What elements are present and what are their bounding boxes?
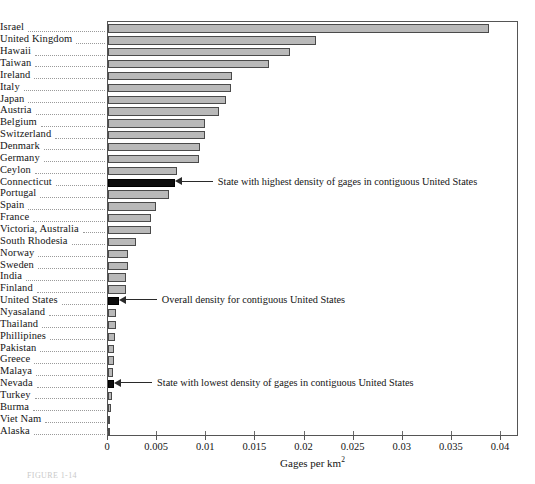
plot-area: [107, 21, 518, 436]
category-label-row: Belgium: [0, 116, 107, 128]
bar-row: [108, 200, 519, 212]
leader-dots: [83, 223, 105, 233]
bar-viet-nam: [108, 416, 110, 424]
bar-portugal: [108, 190, 169, 198]
x-tick: [402, 436, 403, 440]
leader-dots: [28, 200, 105, 210]
leader-dots: [55, 129, 105, 139]
category-label: India: [0, 270, 23, 281]
category-label: United Kingdom: [0, 33, 73, 44]
bar-row: [108, 93, 519, 105]
leader-dots: [38, 247, 105, 257]
bar-greece: [108, 356, 114, 364]
category-label-row: Hawaii: [0, 45, 107, 57]
category-label-row: Viet Nam: [0, 412, 107, 424]
bar-row: [108, 69, 519, 81]
bar-row: [108, 354, 519, 366]
leader-dots: [45, 413, 105, 423]
bar-row: [108, 46, 519, 58]
category-label-row: Finland: [0, 282, 107, 294]
x-tick-inner: [500, 431, 501, 435]
category-label: Ireland: [0, 69, 31, 80]
category-label: Connecticut: [0, 176, 53, 187]
bar-row: [108, 81, 519, 93]
x-tick: [353, 436, 354, 440]
bar-sweden: [108, 262, 128, 270]
x-tick: [107, 436, 108, 440]
bar-row: [108, 129, 519, 141]
x-tick-inner: [353, 431, 354, 435]
bar-spain: [108, 202, 156, 210]
category-label: Pakistan: [0, 342, 37, 353]
bar-phillipines: [108, 333, 115, 341]
leader-dots: [50, 330, 105, 340]
bar-norway: [108, 250, 128, 258]
category-label-row: Turkey: [0, 389, 107, 401]
bar-row: [108, 117, 519, 129]
category-label: Greece: [0, 353, 31, 364]
category-label: United States: [0, 294, 59, 305]
category-label-row: South Rhodesia: [0, 234, 107, 246]
category-label: France: [0, 211, 30, 222]
category-label: Burma: [0, 401, 30, 412]
x-tick: [205, 436, 206, 440]
category-label: Portugal: [0, 187, 37, 198]
bar-belgium: [108, 119, 205, 127]
x-tick-inner: [205, 431, 206, 435]
bar-row: [108, 22, 519, 34]
category-label-row: Victoria, Australia: [0, 223, 107, 235]
leader-dots: [37, 283, 105, 293]
leader-dots: [24, 81, 105, 91]
bar-row: [108, 413, 519, 425]
category-label: Ceylon: [0, 164, 32, 175]
category-label: Spain: [0, 199, 25, 210]
category-axis: IsraelUnited KingdomHawaiiTaiwanIrelandI…: [0, 21, 107, 436]
category-label-row: Ceylon: [0, 163, 107, 175]
bar-row: [108, 224, 519, 236]
bar-denmark: [108, 143, 200, 151]
category-label: Israel: [0, 21, 25, 32]
leader-dots: [42, 318, 105, 328]
category-label: Viet Nam: [0, 413, 42, 424]
leader-dots: [36, 366, 105, 376]
leader-dots: [33, 401, 105, 411]
leader-dots: [26, 271, 105, 281]
bar-hawaii: [108, 48, 290, 56]
category-label-row: Germany: [0, 151, 107, 163]
bar-row: [108, 34, 519, 46]
x-tick-inner: [304, 431, 305, 435]
bar-united-states: [108, 297, 119, 305]
category-label-row: Burma: [0, 400, 107, 412]
leader-dots: [34, 354, 105, 364]
bar-row: [108, 318, 519, 330]
leader-dots: [40, 188, 105, 198]
category-label-row: Spain: [0, 199, 107, 211]
category-label: Victoria, Australia: [0, 223, 80, 234]
x-tick-label: 0: [104, 441, 109, 452]
bar-row: [108, 271, 519, 283]
bar-united-kingdom: [108, 36, 316, 44]
annotation-connecticut: State with highest density of gages in c…: [175, 175, 477, 188]
arrow-left-icon: [175, 177, 213, 186]
leader-dots: [35, 164, 105, 174]
category-label-row: Switzerland: [0, 128, 107, 140]
leader-dots: [41, 117, 105, 127]
bar-row: [108, 342, 519, 354]
bar-france: [108, 214, 151, 222]
category-label-row: Austria: [0, 104, 107, 116]
x-tick-inner: [156, 431, 157, 435]
category-label-row: Nyasaland: [0, 306, 107, 318]
bar-malaya: [108, 368, 113, 376]
x-tick-label: 0.02: [294, 441, 312, 452]
bar-italy: [108, 84, 231, 92]
bar-row: [108, 307, 519, 319]
bar-connecticut: [108, 179, 175, 187]
leader-dots: [44, 140, 105, 150]
category-label-row: Norway: [0, 246, 107, 258]
category-label-row: Ireland: [0, 68, 107, 80]
category-label-row: Portugal: [0, 187, 107, 199]
leader-dots: [36, 105, 105, 115]
category-label-row: Phillipines: [0, 329, 107, 341]
arrow-left-icon: [119, 295, 157, 304]
bar-india: [108, 273, 126, 281]
